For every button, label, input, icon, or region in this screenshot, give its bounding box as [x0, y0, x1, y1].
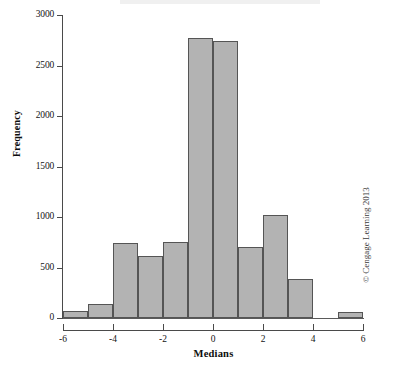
x-axis-tick-label: -6 — [48, 334, 78, 345]
x-axis-tick — [213, 324, 214, 330]
x-axis-tick — [113, 324, 114, 330]
histogram-bar — [113, 243, 138, 318]
x-axis-tick — [363, 324, 364, 330]
histogram-figure: 050010001500200025003000 -6-4-20246 Freq… — [0, 0, 401, 366]
x-axis-tick — [63, 324, 64, 330]
y-axis-tick-label: 3000 — [14, 10, 54, 19]
x-axis-tick-label: 4 — [298, 334, 328, 345]
y-axis-tick — [57, 167, 62, 168]
histogram-bar — [188, 38, 213, 318]
histogram-bar — [163, 242, 188, 318]
x-axis-tick-label: 0 — [198, 334, 228, 345]
histogram-bar — [63, 311, 88, 318]
plot-area — [63, 15, 363, 318]
histogram-bar — [238, 247, 263, 318]
copyright-credit: © Cengage Learning 2013 — [361, 160, 371, 310]
x-axis-tick-label: -2 — [148, 334, 178, 345]
y-axis-tick — [57, 66, 62, 67]
histogram-bar — [138, 256, 163, 318]
x-axis-tick — [313, 324, 314, 330]
y-axis-tick-label: 1000 — [14, 212, 54, 221]
y-axis-tick — [57, 268, 62, 269]
y-axis-tick — [57, 318, 62, 319]
histogram-bar — [263, 215, 288, 318]
y-axis-tick-label: 500 — [14, 263, 54, 272]
x-axis-tick-label: -4 — [98, 334, 128, 345]
x-axis-title: Medians — [63, 348, 364, 359]
x-axis-tick-label: 6 — [348, 334, 378, 345]
y-axis-tick — [57, 217, 62, 218]
y-axis-tick — [57, 15, 62, 16]
x-axis-tick-label: 2 — [248, 334, 278, 345]
x-axis-rule — [63, 330, 364, 331]
x-axis-baseline — [63, 318, 364, 319]
y-axis-title: Frequency — [11, 74, 22, 194]
histogram-bar — [213, 41, 238, 318]
y-axis-tick-label: 0 — [14, 313, 54, 322]
y-axis-tick-label: 2500 — [14, 61, 54, 70]
histogram-bar — [88, 304, 113, 318]
x-axis-tick — [163, 324, 164, 330]
y-axis-tick — [57, 116, 62, 117]
histogram-bar — [288, 279, 313, 318]
clipped-title-strip — [120, 0, 320, 4]
x-axis-tick — [263, 324, 264, 330]
